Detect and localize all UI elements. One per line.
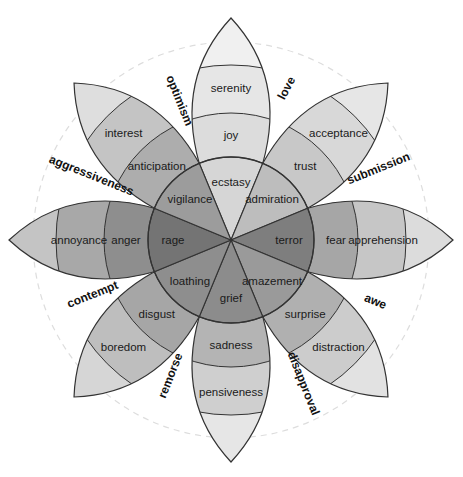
dyad-label-optimism: optimism	[163, 73, 196, 128]
emotion-label-vigilance: vigilance	[168, 193, 213, 205]
emotion-label-amazement: amazement	[242, 275, 303, 287]
emotion-label-trust: trust	[294, 160, 317, 172]
emotion-label-joy: joy	[223, 129, 239, 141]
emotion-label-anticipation: anticipation	[128, 160, 186, 172]
emotion-label-boredom: boredom	[101, 341, 146, 353]
emotion-label-surprise: surprise	[285, 308, 326, 320]
dyad-label-love: love	[275, 74, 299, 102]
emotion-label-sadness: sadness	[210, 339, 253, 351]
emotion-label-admiration: admiration	[245, 193, 299, 205]
emotion-label-apprehension: apprehension	[348, 234, 418, 246]
emotion-label-interest: interest	[105, 127, 144, 139]
emotion-label-terror: terror	[275, 234, 303, 246]
emotion-label-grief: grief	[220, 292, 243, 304]
emotion-label-anger: anger	[111, 234, 141, 246]
emotion-label-acceptance: acceptance	[309, 127, 368, 139]
emotion-label-serenity: serenity	[211, 82, 252, 94]
emotion-label-annoyance: annoyance	[51, 234, 107, 246]
wheel-canvas: ecstasyjoyserenityadmirationtrustaccepta…	[0, 0, 463, 477]
emotion-label-rage: rage	[161, 234, 184, 246]
emotion-label-ecstasy: ecstasy	[212, 176, 251, 188]
emotion-label-pensiveness: pensiveness	[199, 386, 263, 398]
emotion-label-loathing: loathing	[170, 275, 210, 287]
plutchik-wheel-diagram: ecstasyjoyserenityadmirationtrustaccepta…	[0, 0, 463, 477]
emotion-label-fear: fear	[326, 234, 346, 246]
emotion-label-disgust: disgust	[139, 308, 176, 320]
emotion-label-distraction: distraction	[312, 341, 364, 353]
dyad-label-awe: awe	[362, 291, 389, 313]
